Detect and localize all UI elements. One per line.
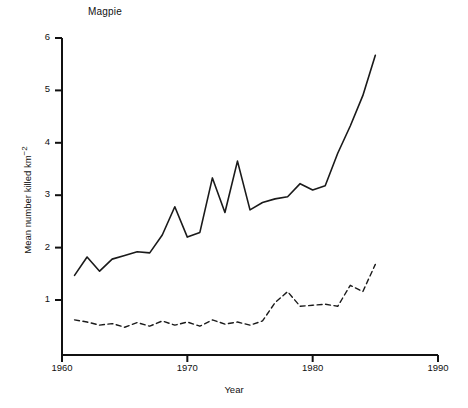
y-tick-label: 5: [30, 83, 50, 94]
chart-title: Magpie: [88, 6, 122, 17]
axes: [62, 38, 438, 355]
x-tick-label: 1990: [418, 362, 458, 373]
x-tick-label: 1970: [167, 362, 207, 373]
plot-area: [0, 0, 468, 408]
y-tick-label: 2: [30, 241, 50, 252]
x-tick-label: 1960: [42, 362, 82, 373]
y-axis-label-exponent: −2: [20, 146, 29, 155]
y-tick-label: 1: [30, 293, 50, 304]
y-axis-ticks: [55, 38, 62, 300]
x-axis-label: Year: [0, 384, 468, 395]
x-tick-label: 1980: [293, 362, 333, 373]
series-line-solid-series: [75, 55, 376, 275]
y-axis-label-text: Mean number killed km: [22, 155, 33, 253]
y-tick-label: 3: [30, 188, 50, 199]
y-tick-label: 6: [30, 31, 50, 42]
series-line-dashed-series: [75, 264, 376, 327]
chart-figure: Magpie Mean number killed km−2 Year 1234…: [0, 0, 468, 408]
y-tick-label: 4: [30, 136, 50, 147]
data-series-layer: [75, 55, 376, 327]
x-axis-ticks: [62, 355, 438, 362]
